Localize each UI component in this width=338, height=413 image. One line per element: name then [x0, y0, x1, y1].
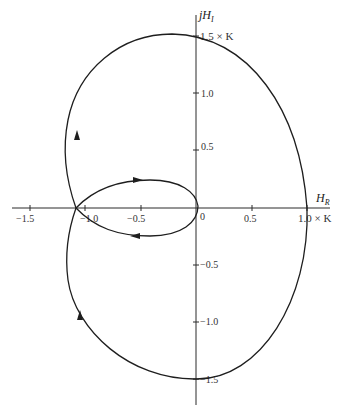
- nyquist-plot: −1.5 −1.0 −0.5 0 0.5 1.0 × K 1.5 × K 1.0…: [0, 0, 338, 413]
- real-tick-label: 0: [200, 211, 205, 222]
- imag-tick-label: −0.5: [200, 259, 218, 270]
- real-tick-label: 1.0 × K: [298, 212, 331, 224]
- real-tick-label: −0.5: [127, 213, 145, 224]
- real-tick-label: −1.5: [16, 213, 34, 224]
- imag-tick-label: −1.0: [200, 316, 218, 327]
- imaginary-axis-label: jHI: [197, 8, 214, 24]
- arrow-left-icon: [130, 233, 140, 239]
- imag-tick-label: 1.0: [201, 88, 214, 99]
- nyquist-outer-curve: [65, 34, 307, 379]
- real-axis-label: HR: [315, 191, 330, 207]
- arrow-up-icon: [77, 310, 83, 320]
- arrow-right-icon: [133, 177, 143, 183]
- imag-tick-label: −1.5: [200, 374, 218, 385]
- arrow-up-icon: [74, 130, 80, 140]
- real-tick-label: 0.5: [244, 213, 257, 224]
- imag-tick-label: 0.5: [201, 141, 214, 152]
- imag-tick-label: 1.5 × K: [200, 30, 233, 42]
